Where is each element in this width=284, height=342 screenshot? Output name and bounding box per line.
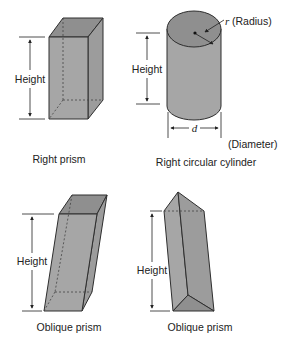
oblique-prism-caption: Oblique prism [168,321,233,333]
right-prism-figure: Height Right prism [15,18,103,165]
oblique-prism-triangular-figure: Height Oblique prism [137,192,233,333]
diameter-label: (Diameter) [228,138,278,150]
right-prism-caption: Right prism [32,153,85,165]
height-label: Height [17,255,47,267]
radius-label: (Radius) [232,15,272,27]
oblique-prism-rectangular-figure: Height Oblique prism [17,195,107,333]
height-label: Height [132,63,162,75]
height-label: Height [15,73,45,85]
radius-symbol: r [225,15,230,27]
geometric-solids-diagram: Height Right prism r (Radius) Height d (… [0,0,284,342]
height-label: Height [137,264,167,276]
cylinder-caption: Right circular cylinder [156,156,257,168]
cylinder-figure: r (Radius) Height d (Diameter) Right cir… [132,11,278,168]
right-prism-front-face [49,37,88,119]
oblique-prism-caption: Oblique prism [37,321,102,333]
diameter-symbol: d [192,122,198,134]
cylinder-top-face [167,11,221,47]
